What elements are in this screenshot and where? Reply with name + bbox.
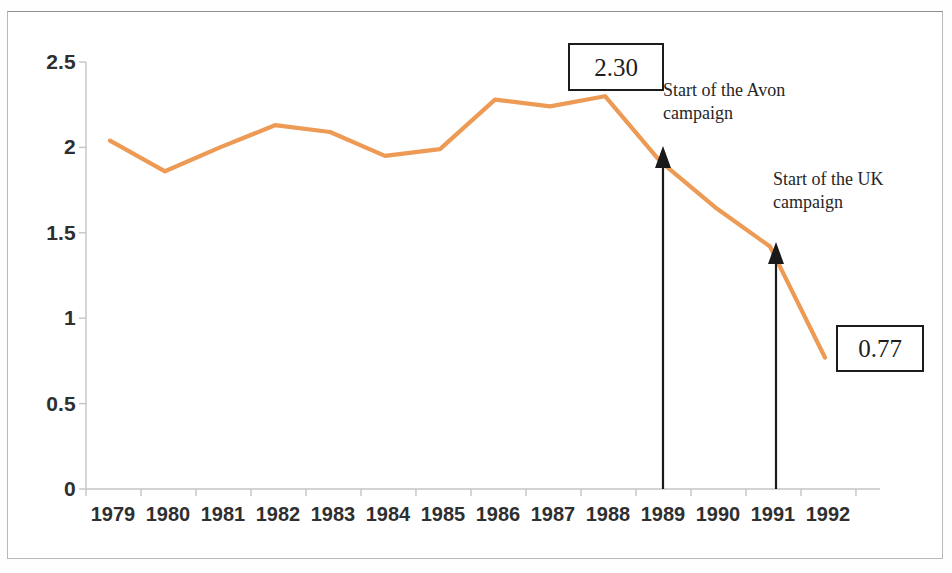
data-series-line bbox=[110, 96, 825, 357]
y-tick-label-0-5: 0.5 bbox=[12, 392, 76, 416]
avon-campaign-arrow bbox=[655, 146, 671, 489]
y-axis-labels: 2.5 2 1.5 1 0.5 0 bbox=[12, 0, 76, 573]
avon-campaign-label: Start of the Avon campaign bbox=[663, 79, 843, 125]
peak-value-callout: 2.30 bbox=[568, 43, 664, 91]
x-tick-label-1992: 1992 bbox=[796, 503, 860, 526]
y-tick-label-0: 0 bbox=[12, 477, 76, 501]
end-value-callout: 0.77 bbox=[836, 325, 924, 372]
x-axis-ticks bbox=[86, 489, 856, 496]
y-tick-label-2: 2 bbox=[12, 135, 76, 159]
y-tick-label-1: 1 bbox=[12, 306, 76, 330]
x-axis-labels: 1979 1980 1981 1982 1983 1984 1985 1986 … bbox=[0, 503, 952, 537]
scanned-figure: 2.5 2 1.5 1 0.5 0 1979 1980 1981 1982 19… bbox=[0, 0, 952, 573]
uk-campaign-arrow bbox=[768, 242, 784, 489]
y-tick-label-1-5: 1.5 bbox=[12, 221, 76, 245]
uk-campaign-label: Start of the UK campaign bbox=[773, 168, 943, 214]
y-axis-ticks bbox=[79, 62, 86, 489]
callout-leader-peak bbox=[614, 91, 640, 92]
y-tick-label-2-5: 2.5 bbox=[12, 50, 76, 74]
